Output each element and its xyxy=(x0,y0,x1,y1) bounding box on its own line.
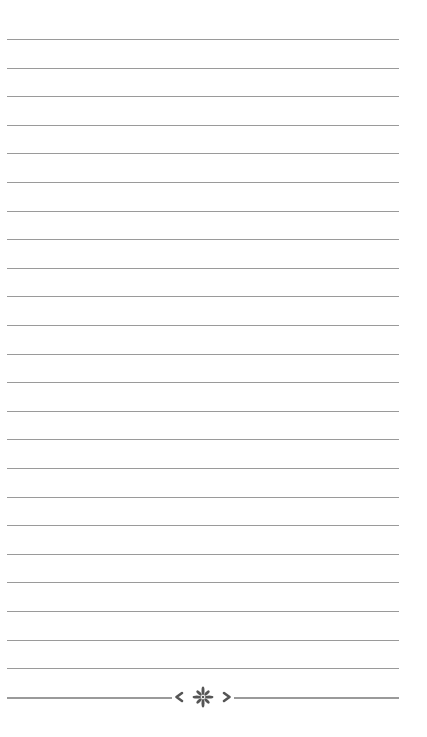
ruled-line xyxy=(7,668,399,669)
flower-burst-icon xyxy=(193,687,214,708)
ruled-line xyxy=(7,525,399,526)
ruled-line xyxy=(7,153,399,154)
ruled-line xyxy=(7,582,399,583)
ruled-line xyxy=(7,411,399,412)
ruled-line xyxy=(7,554,399,555)
ruled-line xyxy=(7,296,399,297)
ruled-line xyxy=(7,325,399,326)
ruled-line xyxy=(7,68,399,69)
ruled-line xyxy=(7,497,399,498)
chevron-right-icon xyxy=(224,693,230,701)
ruled-line xyxy=(7,182,399,183)
lined-page xyxy=(0,0,427,737)
chevron-left-icon xyxy=(177,693,183,701)
ruled-line xyxy=(7,125,399,126)
ruled-line xyxy=(7,354,399,355)
footer-ornament xyxy=(172,683,234,711)
ruled-line xyxy=(7,640,399,641)
ruled-line xyxy=(7,382,399,383)
ruled-line xyxy=(7,468,399,469)
ruled-line xyxy=(7,96,399,97)
ruled-line xyxy=(7,211,399,212)
ruled-line xyxy=(7,439,399,440)
ruled-line xyxy=(7,39,399,40)
ruled-line xyxy=(7,611,399,612)
ruled-line xyxy=(7,239,399,240)
ruled-line xyxy=(7,268,399,269)
